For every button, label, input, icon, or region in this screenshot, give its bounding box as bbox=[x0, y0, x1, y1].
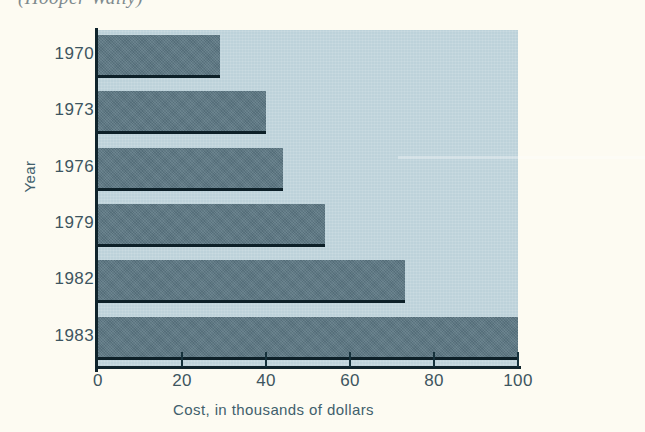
x-tick-label-20: 20 bbox=[172, 371, 192, 391]
bar-1973 bbox=[98, 91, 266, 134]
bar-1976 bbox=[98, 148, 283, 191]
x-tick-mark-100 bbox=[517, 352, 519, 367]
bar-1979 bbox=[98, 204, 325, 247]
y-axis-tick-labels: 197019731976197919821983 bbox=[40, 30, 96, 368]
x-tick-mark-20 bbox=[181, 352, 183, 367]
y-tick-label-1970: 1970 bbox=[55, 44, 94, 64]
y-tick-label-1979: 1979 bbox=[55, 213, 94, 233]
bar-1970 bbox=[98, 35, 220, 78]
x-tick-mark-40 bbox=[265, 352, 267, 367]
x-tick-label-0: 0 bbox=[93, 371, 103, 391]
y-tick-label-1982: 1982 bbox=[55, 269, 94, 289]
y-axis-title: Year bbox=[21, 161, 38, 193]
y-tick-label-1983: 1983 bbox=[55, 326, 94, 346]
bar-row bbox=[98, 91, 518, 131]
y-tick-label-1973: 1973 bbox=[55, 100, 94, 120]
x-tick-label-60: 60 bbox=[340, 371, 360, 391]
plot-area bbox=[98, 30, 518, 368]
bar-row bbox=[98, 317, 518, 357]
x-tick-label-100: 100 bbox=[503, 371, 533, 391]
bar-1983 bbox=[98, 317, 518, 360]
bar-row bbox=[98, 204, 518, 244]
bar-row bbox=[98, 260, 518, 300]
y-axis-line bbox=[95, 28, 98, 372]
x-tick-mark-60 bbox=[349, 352, 351, 367]
bar-1982 bbox=[98, 260, 405, 303]
y-tick-label-1976: 1976 bbox=[55, 157, 94, 177]
bar-row bbox=[98, 148, 518, 188]
x-axis-title: Cost, in thousands of dollars bbox=[0, 401, 547, 418]
x-tick-label-80: 80 bbox=[424, 371, 444, 391]
bar-row bbox=[98, 35, 518, 75]
x-tick-mark-80 bbox=[433, 352, 435, 367]
x-tick-label-40: 40 bbox=[256, 371, 276, 391]
x-axis-line bbox=[95, 366, 521, 369]
